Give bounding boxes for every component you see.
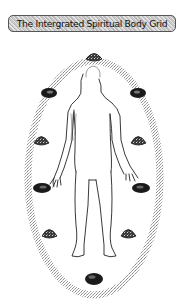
stone-lower-left-icon bbox=[42, 230, 57, 239]
stone-upper-right-icon bbox=[130, 88, 146, 98]
human-figure bbox=[50, 66, 138, 257]
stone-upper-left-icon bbox=[41, 88, 57, 98]
stone-mid-lower-right-icon bbox=[132, 183, 150, 193]
grid-illustration bbox=[0, 0, 188, 299]
stone-mid-lower-left-icon bbox=[33, 183, 51, 193]
stone-mid-upper-left-icon bbox=[34, 137, 49, 146]
stone-bottom-icon bbox=[85, 273, 103, 285]
stone-top-icon bbox=[86, 54, 102, 62]
stone-mid-upper-right-icon bbox=[131, 137, 146, 146]
stone-lower-right-icon bbox=[121, 230, 136, 239]
